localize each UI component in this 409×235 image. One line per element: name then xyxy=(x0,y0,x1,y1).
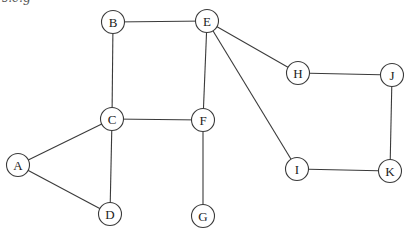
node-a: A xyxy=(7,154,30,177)
node-g: G xyxy=(192,205,215,228)
node-e: E xyxy=(196,10,219,33)
node-d: D xyxy=(99,203,122,226)
edge-a-d xyxy=(18,165,110,214)
edge-c-d xyxy=(110,119,112,214)
node-label: C xyxy=(108,112,117,127)
edge-j-k xyxy=(390,75,392,171)
node-label: G xyxy=(198,209,207,224)
graph-diagram: ABCDEFGHIJK xyxy=(0,0,409,235)
node-layer: ABCDEFGHIJK xyxy=(7,10,404,228)
node-f: F xyxy=(192,109,215,132)
edge-b-c xyxy=(112,22,113,119)
edge-i-k xyxy=(297,169,390,171)
node-label: H xyxy=(293,66,302,81)
node-label: D xyxy=(105,207,114,222)
edge-e-i xyxy=(207,21,297,169)
node-h: H xyxy=(287,62,310,85)
node-label: E xyxy=(203,14,211,29)
node-i: I xyxy=(286,158,309,181)
node-k: K xyxy=(379,160,402,183)
node-j: J xyxy=(381,64,404,87)
edge-c-a xyxy=(18,119,112,165)
node-label: J xyxy=(389,68,394,83)
edge-c-f xyxy=(112,119,203,120)
edge-h-j xyxy=(298,73,392,75)
node-label: K xyxy=(385,164,395,179)
edge-b-e xyxy=(113,21,207,22)
edge-e-h xyxy=(207,21,298,73)
edge-e-f xyxy=(203,21,207,120)
node-label: B xyxy=(109,15,118,30)
node-b: B xyxy=(102,11,125,34)
node-c: C xyxy=(101,108,124,131)
node-label: F xyxy=(199,113,206,128)
node-label: I xyxy=(295,162,299,177)
node-label: A xyxy=(13,158,23,173)
